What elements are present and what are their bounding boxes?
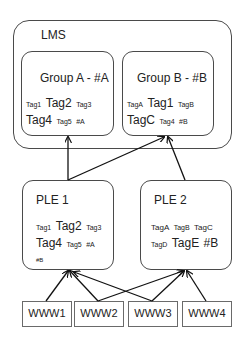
arrow-www4-to-ple2 bbox=[187, 271, 206, 301]
arrow-ple2-to-groupb bbox=[168, 137, 185, 180]
arrow-www1-to-ple1 bbox=[46, 271, 68, 301]
edges-layer bbox=[0, 0, 245, 346]
arrow-www3-to-ple2 bbox=[152, 271, 184, 301]
arrow-ple1-to-groupb bbox=[68, 137, 164, 180]
